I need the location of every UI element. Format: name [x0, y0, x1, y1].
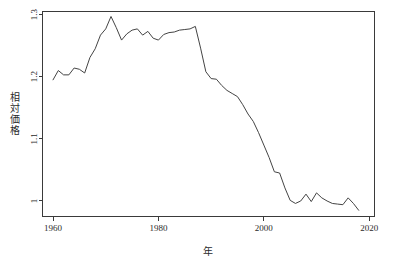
y-tick-label-1.1: 1.1	[30, 133, 40, 144]
x-tick-label-1960: 1960	[44, 223, 63, 233]
y-axis-title: 相対価格	[10, 91, 20, 136]
y-axis-title-char-1: 対	[10, 102, 20, 114]
x-axis-title: 年	[203, 245, 213, 257]
x-tick-label-1980: 1980	[149, 223, 168, 233]
y-axis-title-char-0: 相	[10, 91, 20, 103]
y-tick-label-1.2: 1.2	[30, 71, 40, 82]
x-tick-label-2020: 2020	[360, 223, 379, 233]
y-axis-title-char-3: 格	[10, 124, 20, 136]
x-tick-label-2000: 2000	[255, 223, 274, 233]
y-tick-label-1.3: 1.3	[30, 8, 40, 20]
y-axis-title-char-2: 価	[10, 113, 20, 125]
relative-price-line-chart: 11.11.21.3 1960198020002020 年 相対価格	[0, 0, 395, 262]
chart-canvas: 11.11.21.3 1960198020002020 年 相対価格	[0, 0, 395, 262]
y-tick-label-1: 1	[30, 199, 40, 204]
